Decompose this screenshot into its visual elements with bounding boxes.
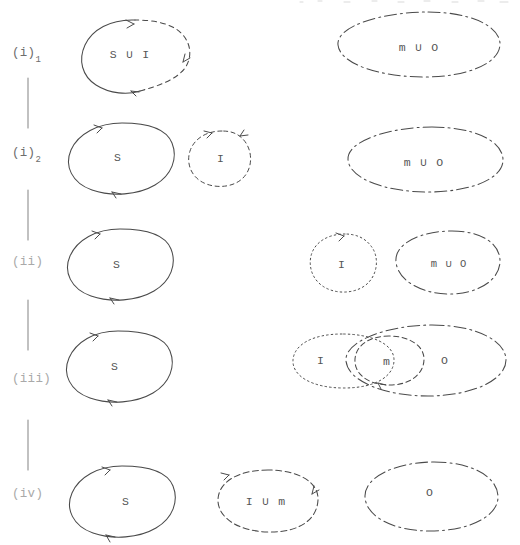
- row-iii-I-blob: [293, 334, 394, 388]
- row-label-i-1-sub: 1: [35, 55, 41, 65]
- diagram-strokes: [0, 0, 520, 545]
- row-iv-S-label: S: [122, 495, 130, 508]
- row-ii-I-arrowheads: [336, 233, 344, 241]
- row-iii-I-label: I: [317, 354, 325, 367]
- row-label-i-1-main: (i): [12, 46, 35, 60]
- row-label-i-2: (i)2: [12, 146, 41, 163]
- row-ii-I-label: I: [338, 258, 346, 271]
- row-iv-O-label: O: [426, 486, 434, 499]
- diagram-canvas: (i)1 (i)2 (ii) (iii) (iv) S ∪ I m ∪ O S …: [0, 0, 520, 545]
- row-label-i-2-main: (i): [12, 146, 35, 160]
- row-label-iii-main: (iii): [12, 372, 51, 386]
- row-ii-S-label: S: [113, 258, 121, 271]
- row-label-i-2-sub: 2: [35, 155, 41, 165]
- row-iii-S-blob: [67, 331, 173, 402]
- row-label-iv: (iv): [12, 487, 43, 501]
- row-iii-m-arrowheads: [378, 383, 386, 389]
- row-iv-I-union-m-label: I ∪ m: [246, 494, 287, 508]
- row-i1-m-union-O-label: m ∪ O: [399, 40, 440, 54]
- row-ii-m-union-O-label: m ∪ O: [431, 257, 468, 270]
- row-iii-S-label: S: [111, 360, 119, 373]
- row-label-ii-main: (ii): [12, 255, 43, 269]
- row-iii-m-label: m: [383, 355, 391, 368]
- scan-artefact-marks: [300, 1, 508, 2]
- row-i2-S-label: S: [114, 151, 122, 164]
- row-label-ii: (ii): [12, 255, 43, 269]
- row-iii-O-label: O: [441, 354, 449, 367]
- row-iv-S-arrowheads: [102, 467, 115, 542]
- row-label-i-1: (i)1: [12, 46, 41, 63]
- row-label-iv-main: (iv): [12, 487, 43, 501]
- row-i2-m-union-O-label: m ∪ O: [404, 155, 445, 169]
- row-i2-I-label: I: [217, 152, 225, 165]
- row-iii-O-blob: [346, 325, 506, 396]
- row-i1-S-union-I-label: S ∪ I: [110, 47, 151, 61]
- row-label-iii: (iii): [12, 372, 51, 386]
